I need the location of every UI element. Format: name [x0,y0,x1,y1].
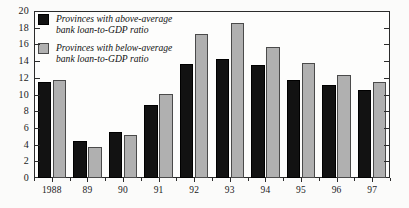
y-axis-tick-label: 8 [24,106,29,116]
x-axis-tick-label: 94 [260,185,270,195]
chart-legend: Provinces with above-averagebank loan-to… [38,13,228,71]
x-axis-tick-mark [194,178,195,182]
y-axis-tick-mark [34,128,40,129]
legend-label-line2: bank loan-to-GDP ratio [56,24,149,35]
x-axis-minor-tick [105,178,106,181]
y-axis-tick-label: 16 [19,39,29,49]
x-axis-tick-label: 1988 [42,185,62,195]
y-axis-tick-label: 14 [19,56,29,66]
x-axis-tick-label: 92 [189,185,199,195]
y-axis-tick-mark [34,78,40,79]
bar-group [319,11,355,178]
y-axis-tick-label: 4 [24,140,29,150]
legend-label-line1: Provinces with below-average [56,42,172,53]
bar-above-average [358,90,372,178]
x-axis-tick-label: 96 [332,185,342,195]
x-axis-tick-mark [159,178,160,182]
y-axis-tick-mark-right [384,128,390,129]
y-axis-tick-mark [34,11,40,12]
x-axis-tick-mark [265,178,266,182]
y-axis-tick-label: 10 [19,90,29,100]
y-axis-tick-label: 12 [19,73,29,83]
bar-chart: 02468101214161820 1988899091929394959697… [0,0,409,208]
x-axis-minor-tick [212,178,213,181]
legend-item: Provinces with above-averagebank loan-to… [38,13,228,36]
x-axis-tick-label: 90 [118,185,128,195]
x-axis-tick-label: 93 [225,185,235,195]
legend-swatch-above-average-icon [38,14,49,25]
x-axis-tick-mark [123,178,124,182]
y-axis-tick-label: 2 [24,156,29,166]
bar-above-average [180,64,194,178]
bar-below-average [159,94,173,178]
x-axis-tick-mark [87,178,88,182]
x-axis-minor-tick [141,178,142,181]
y-axis: 02468101214161820 [0,0,34,189]
y-axis-tick-mark-right [384,95,390,96]
y-axis-tick-mark-right [384,44,390,45]
y-axis-tick-label: 0 [24,173,29,183]
x-axis-minor-tick [70,178,71,181]
x-axis-minor-tick [34,178,35,181]
y-axis-tick-mark [34,161,40,162]
y-axis-tick-mark [34,145,40,146]
y-axis-tick-label: 18 [19,23,29,33]
y-axis-tick-mark [34,95,40,96]
bar-below-average [337,75,351,178]
y-axis-tick-mark-right [384,11,390,12]
bar-above-average [216,59,230,178]
x-axis-minor-tick [390,178,391,181]
y-axis-tick-mark [34,61,40,62]
bar-above-average [322,85,336,178]
x-axis-minor-tick [319,178,320,181]
x-axis-tick-label: 97 [367,185,377,195]
bar-below-average [53,80,67,178]
bar-below-average [88,147,102,178]
bar-group [283,11,319,178]
x-axis-minor-tick [283,178,284,181]
legend-label-line2: bank loan-to-GDP ratio [56,53,149,64]
bar-below-average [302,63,316,178]
legend-label: Provinces with above-averagebank loan-to… [56,13,172,36]
y-axis-tick-mark-right [384,161,390,162]
y-axis-tick-label: 20 [19,6,29,16]
x-axis-minor-tick [176,178,177,181]
y-axis-tick-mark [34,44,40,45]
y-axis-tick-mark-right [384,28,390,29]
y-axis-tick-mark-right [384,78,390,79]
x-axis-tick-mark [52,178,53,182]
bar-above-average [251,65,265,178]
x-axis-tick-label: 91 [154,185,164,195]
x-axis-tick-mark [337,178,338,182]
y-axis-tick-label: 6 [24,123,29,133]
x-axis-minor-tick [248,178,249,181]
bar-group [248,11,284,178]
y-axis-tick-mark-right [384,145,390,146]
x-axis-tick-label: 95 [296,185,306,195]
bar-above-average [287,80,301,178]
legend-label-line1: Provinces with above-average [56,13,172,24]
legend-item: Provinces with below-averagebank loan-to… [38,42,228,65]
x-axis-minor-tick [354,178,355,181]
bar-above-average [144,105,158,178]
x-axis: 1988899091929394959697 [34,178,390,208]
y-axis-tick-mark [34,111,40,112]
bar-above-average [73,141,87,178]
legend-label: Provinces with below-averagebank loan-to… [56,42,172,65]
bar-below-average [373,82,387,178]
y-axis-tick-mark [34,28,40,29]
x-axis-tick-mark [230,178,231,182]
bar-below-average [266,47,280,178]
bar-below-average [231,23,245,178]
x-axis-tick-label: 89 [82,185,92,195]
bar-above-average [109,132,123,178]
y-axis-tick-mark-right [384,61,390,62]
x-axis-tick-mark [372,178,373,182]
bar-below-average [124,135,138,178]
bar-above-average [38,82,52,178]
x-axis-tick-mark [301,178,302,182]
y-axis-tick-mark-right [384,111,390,112]
